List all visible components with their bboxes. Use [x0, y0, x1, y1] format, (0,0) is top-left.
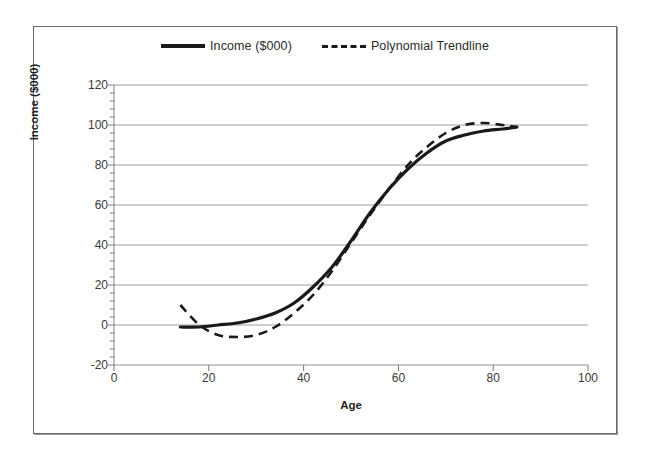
chart-legend: Income ($000) Polynomial Trendline	[34, 39, 616, 53]
x-tick-label: 60	[375, 371, 421, 385]
y-axis-tick-labels: 120100806040200-20	[64, 85, 108, 365]
x-tick-label: 40	[281, 371, 327, 385]
y-tick-label: 100	[68, 118, 108, 132]
plot-area	[114, 85, 588, 365]
legend-entry-trendline[interactable]: Polynomial Trendline	[322, 39, 489, 53]
y-tick-label: 0	[68, 318, 108, 332]
y-tick-label: 120	[68, 78, 108, 92]
x-axis-tick-labels: 020406080100	[114, 371, 588, 391]
y-tick-label: 20	[68, 278, 108, 292]
series-line-trendline	[180, 123, 517, 337]
dashed-line-swatch	[322, 45, 366, 48]
y-tick-label: 80	[68, 158, 108, 172]
plot-svg	[114, 85, 588, 365]
legend-label-income: Income ($000)	[210, 39, 292, 53]
x-tick-label: 80	[470, 371, 516, 385]
y-tick-label: 40	[68, 238, 108, 252]
solid-line-swatch	[161, 44, 205, 48]
x-axis-title: Age	[114, 399, 588, 411]
y-axis-title: Income ($000)	[28, 27, 40, 177]
x-tick-label: 20	[186, 371, 232, 385]
y-tick-label: 60	[68, 198, 108, 212]
y-tick-label: -20	[68, 358, 108, 372]
legend-label-trendline: Polynomial Trendline	[371, 39, 489, 53]
series-line-income	[180, 127, 517, 327]
legend-entry-income[interactable]: Income ($000)	[161, 39, 292, 53]
x-tick-label: 100	[565, 371, 611, 385]
chart-figure: Income ($000) Polynomial Trendline Incom…	[33, 26, 617, 434]
x-tick-label: 0	[91, 371, 137, 385]
